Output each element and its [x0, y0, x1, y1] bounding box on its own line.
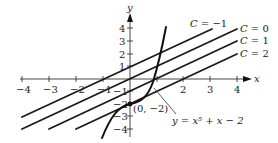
- x-axis-label: x: [254, 73, 260, 84]
- y-axis-arrow-icon: [127, 13, 133, 22]
- y-tick-label: −4: [113, 124, 128, 135]
- x-tick-label: 4: [234, 84, 240, 95]
- label-c-minus-1: C = −1: [190, 18, 227, 29]
- label-c-2: C = 2: [240, 48, 269, 59]
- x-tick-label: 2: [180, 84, 186, 95]
- point-label: (0, −2): [133, 103, 168, 114]
- x-axis-arrow-icon: [243, 76, 252, 82]
- x-tick-label: −4: [16, 84, 31, 95]
- y-tick-label: 4: [119, 23, 125, 34]
- point-0-minus-2: [128, 102, 133, 107]
- label-c-1: C = 1: [240, 35, 269, 46]
- label-c-0: C = 0: [240, 23, 269, 34]
- y-tick-label: 3: [119, 36, 125, 47]
- x-tick-label: −3: [43, 84, 58, 95]
- solution-curve: [102, 27, 166, 138]
- x-tick-label: 3: [207, 84, 213, 95]
- curve-label: y = x⁵ + x − 2: [171, 115, 244, 126]
- y-axis-label: y: [126, 2, 133, 13]
- y-tick-label: 2: [119, 49, 125, 60]
- direction-field-chart: x y −4 −3 −2 −1 2 3 4 4 3 2 1 −1 −2 −3 −…: [0, 0, 278, 143]
